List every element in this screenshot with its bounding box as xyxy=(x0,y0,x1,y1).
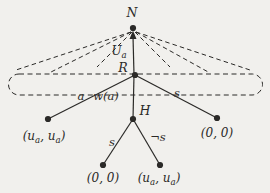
label-payoff-H-right: (ua​, ua​) xyxy=(138,171,181,187)
edge-H-to-left-leaf xyxy=(103,119,133,165)
edge-R-to-left-leaf xyxy=(48,75,135,119)
game-tree-figure: NUa​Raw(a)sH(ua​, ua​)(0, 0)s¬s(0, 0)(ua… xyxy=(0,0,270,193)
node-H xyxy=(130,116,136,122)
leaf-R-left xyxy=(45,116,51,122)
label-payoff-R-left: (ua​, ua​) xyxy=(23,129,66,145)
label-edge-not-s: ¬s xyxy=(150,130,166,144)
nature-ray-right-outer xyxy=(136,32,250,70)
leaf-H-right xyxy=(157,162,163,168)
label-node-N: N xyxy=(126,5,139,20)
game-tree-svg: NUa​Raw(a)sH(ua​, ua​)(0, 0)s¬s(0, 0)(ua… xyxy=(0,0,270,193)
node-R xyxy=(132,72,138,78)
label-edge-s-H: s xyxy=(109,135,115,149)
edge-R-to-N-arrow xyxy=(133,36,134,75)
node-N xyxy=(130,25,136,31)
label-payoff-R-right: (0, 0) xyxy=(201,126,234,140)
leaf-H-left xyxy=(100,162,106,168)
label-edge-a: a xyxy=(78,89,85,103)
label-edge-s-right: s xyxy=(174,86,180,100)
edge-R-to-H xyxy=(133,75,134,119)
label-node-R: R xyxy=(117,60,127,75)
leaf-R-right xyxy=(214,115,220,121)
label-node-H: H xyxy=(139,103,152,118)
label-edge-wa: w(a) xyxy=(93,89,119,103)
nature-ray-right-mid xyxy=(136,32,210,73)
label-payoff-H-left: (0, 0) xyxy=(87,171,120,185)
label-edge-Ua: Ua​ xyxy=(111,44,126,60)
